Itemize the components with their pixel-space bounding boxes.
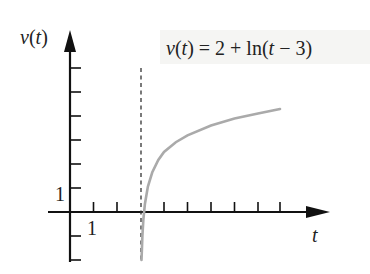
formula-text: v(t) = 2 + ln(t − 3)	[166, 37, 312, 60]
x-tick-label-1: 1	[87, 218, 97, 238]
y-axis-label: v(t)v(t)	[20, 27, 48, 47]
formula-box: v(t) = 2 + ln(t − 3) v(t) = 2 + ln(t − 3…	[160, 30, 370, 64]
function-curve	[142, 109, 281, 260]
y-tick-label-1: 1	[55, 184, 65, 204]
x-axis-label: t	[312, 225, 318, 245]
y-ticks	[70, 68, 81, 260]
y-axis-arrow-icon	[64, 30, 76, 52]
x-axis-arrow-icon	[306, 206, 330, 218]
x-ticks	[94, 202, 281, 212]
